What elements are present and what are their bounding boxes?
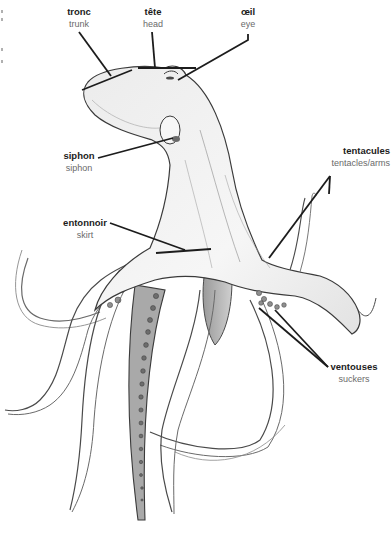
label-tronc-en: trunk	[56, 18, 102, 30]
label-ventouses-fr: ventouses	[328, 361, 380, 373]
label-tronc: tronc trunk	[56, 6, 102, 30]
arm-sucker-center	[129, 285, 165, 520]
label-tentacules: tentacules tentacles/arms	[310, 145, 390, 169]
arm-right-upper	[290, 193, 316, 272]
label-entonnoir-fr: entonnoir	[60, 217, 110, 229]
leader-tronc	[79, 32, 111, 76]
arm-right-hook	[358, 298, 376, 316]
label-ventouses: ventouses suckers	[328, 361, 380, 385]
leader-siphon	[98, 138, 173, 158]
octopus-illustration	[0, 0, 391, 535]
label-siphon-en: siphon	[62, 162, 96, 174]
label-entonnoir-en: skirt	[60, 229, 110, 241]
label-oeil-en: eye	[228, 18, 268, 30]
octopus-diagram: tronc trunk tête head œil eye siphon sip…	[0, 0, 391, 535]
arm-left-long	[70, 270, 133, 512]
leader-tete	[152, 32, 155, 68]
edge-marks	[1, 10, 3, 63]
label-tete: tête head	[130, 6, 176, 30]
label-siphon-fr: siphon	[62, 150, 96, 162]
label-tronc-fr: tronc	[56, 6, 102, 18]
label-oeil-fr: œil	[228, 6, 268, 18]
leader-oeil	[178, 34, 248, 80]
label-tete-fr: tête	[130, 6, 176, 18]
label-tentacules-en: tentacles/arms	[310, 157, 390, 169]
leader-tentacules-1	[269, 176, 330, 258]
leader-ventouses-2	[275, 310, 328, 367]
leader-tentacules-2	[329, 176, 330, 194]
label-tentacules-fr: tentacules	[310, 145, 390, 157]
label-entonnoir: entonnoir skirt	[60, 217, 110, 241]
label-oeil: œil eye	[228, 6, 268, 30]
label-siphon: siphon siphon	[62, 150, 96, 174]
label-ventouses-en: suckers	[328, 373, 380, 385]
arm-far-left	[16, 250, 106, 328]
label-tete-en: head	[130, 18, 176, 30]
leader-ventouses-1	[259, 308, 328, 367]
